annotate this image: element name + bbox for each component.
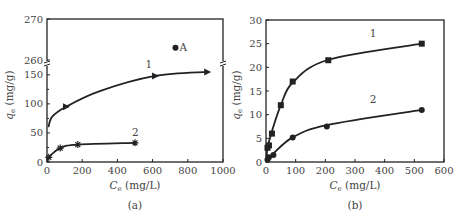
y-tick-label: 0: [256, 157, 262, 168]
series-1-label: 1: [146, 58, 153, 70]
y-tick-label: 10: [249, 109, 262, 120]
x-tick-label: 0: [263, 165, 269, 176]
x-tick-label: 0: [44, 165, 50, 176]
x-tick-label: 600: [143, 165, 162, 176]
y-tick-label: 50: [30, 127, 43, 138]
panel-label-a: (a): [128, 199, 142, 211]
y-tick-label: 5: [256, 133, 262, 144]
figure: 0200400600800100005010015026027012ACe (m…: [0, 0, 462, 219]
plot-frame-b: [266, 20, 444, 162]
y-tick-label: 150: [24, 69, 43, 80]
point-a: [172, 45, 178, 51]
series-2-curve: [266, 110, 421, 161]
x-tick-label: 800: [178, 165, 197, 176]
x-tick-label: 100: [286, 165, 305, 176]
series-2-point: [419, 107, 425, 113]
y-tick-label: 270: [24, 14, 43, 25]
x-tick-label: 200: [316, 165, 335, 176]
y-axis-title: qe (mg/g): [230, 70, 244, 119]
x-tick-label: 300: [345, 165, 364, 176]
series-1-point: [325, 57, 331, 63]
series-1-point: [266, 142, 272, 148]
series-2-point: [324, 124, 330, 130]
y-tick-label: 0: [37, 157, 43, 168]
x-tick-label: 1000: [210, 165, 235, 176]
x-tick-label: 200: [73, 165, 92, 176]
x-axis-title: Ce (mg/L): [110, 179, 161, 193]
series-2-point: [132, 139, 139, 146]
series-1-point: [419, 41, 425, 47]
series-1-point: [204, 68, 211, 75]
x-tick-label: 400: [108, 165, 127, 176]
series-1-label: 1: [370, 27, 377, 39]
y-axis-title: qe (mg/g): [3, 70, 17, 119]
series-1-point: [278, 102, 284, 108]
y-tick-label: 30: [249, 15, 262, 26]
series-1-curve: [48, 72, 207, 127]
y-tick-label: 260: [24, 55, 43, 66]
series-2-point: [270, 152, 276, 158]
y-tick-label: 15: [249, 86, 262, 97]
series-2-point: [74, 141, 81, 148]
series-2-point: [57, 145, 64, 152]
panel-b: 010020030040050060005101520253012Ce (mg/…: [230, 15, 454, 212]
point-a-label: A: [178, 41, 187, 53]
series-2-point: [290, 134, 296, 140]
x-tick-label: 500: [405, 165, 424, 176]
x-tick-label: 400: [375, 165, 394, 176]
panel-label-b: (b): [348, 199, 363, 211]
y-tick-label: 25: [249, 38, 262, 49]
series-2-point: [45, 154, 52, 161]
series-1-curve: [267, 44, 422, 158]
series-1-point: [290, 79, 296, 85]
y-tick-label: 20: [249, 62, 262, 73]
y-tick-label: 100: [24, 98, 43, 109]
series-1-point: [152, 72, 159, 79]
series-2-label: 2: [370, 93, 377, 105]
panel-a: 0200400600800100005010015026027012ACe (m…: [3, 14, 236, 212]
x-tick-label: 600: [434, 165, 453, 176]
series-2-label: 2: [132, 126, 139, 138]
x-axis-title: Ce (mg/L): [330, 179, 381, 193]
series-1-point: [269, 131, 275, 137]
